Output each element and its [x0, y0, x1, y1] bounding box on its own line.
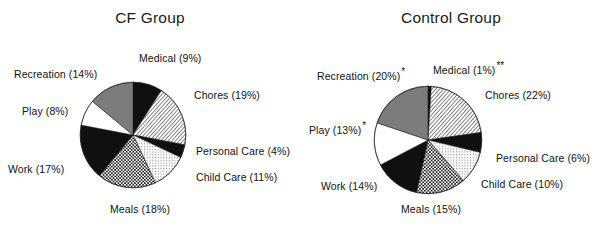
pie-slice-chores	[428, 86, 481, 140]
pie-label-value: (6%)	[567, 152, 590, 164]
pie-label-control-play: Play(13%)*	[309, 120, 366, 136]
pie-label-text: Meals	[401, 203, 430, 215]
pie-label-value: (22%)	[522, 89, 551, 101]
pie-label-value: (9%)	[179, 52, 202, 64]
pie-label-text: Personal Care	[196, 145, 264, 157]
pie-label-control-medical: Medical(1%)**	[433, 60, 504, 76]
chart-panel-cf-group: CF Group Medical	[0, 0, 300, 226]
pie-label-value: (15%)	[433, 203, 462, 215]
pie-label-text: Play	[309, 124, 330, 136]
pie-label-cf-meals: Meals(18%)	[110, 203, 170, 215]
pie-label-value: (14%)	[349, 180, 378, 192]
pie-slices-cf	[80, 82, 186, 188]
pie-label-value: (14%)	[69, 68, 98, 80]
pie-label-value: (19%)	[231, 89, 260, 101]
pie-label-text: Medical	[433, 64, 470, 76]
pie-label-cf-play: Play(8%)	[22, 105, 68, 117]
pie-label-text: Personal Care	[496, 152, 564, 164]
pie-label-text: Chores	[485, 89, 519, 101]
pie-label-cf-chores: Chores(19%)	[194, 89, 260, 101]
pie-label-value: (4%)	[267, 145, 290, 157]
pie-label-value: (11%)	[250, 171, 278, 183]
significance-mark: **	[496, 60, 504, 71]
pie-label-text: Meals	[110, 203, 139, 215]
pie-label-control-recreation: Recreation(20%)*	[317, 66, 405, 82]
pie-label-cf-work: Work(17%)	[8, 163, 64, 175]
pie-label-value: (20%)	[372, 70, 401, 82]
pie-label-value: (13%)	[333, 124, 362, 136]
significance-mark: *	[401, 66, 405, 77]
pie-label-control-work: Work(14%)	[321, 180, 377, 192]
pie-label-cf-child-care: Child Care(11%)	[196, 171, 277, 183]
pie-label-text: Chores	[194, 89, 228, 101]
pie-label-text: Work	[321, 180, 346, 192]
pie-label-cf-recreation: Recreation(14%)	[14, 68, 97, 80]
pie-label-text: Child Care	[196, 171, 247, 183]
pie-label-control-meals: Meals(15%)	[401, 203, 461, 215]
pie-label-value: (18%)	[142, 203, 171, 215]
pie-label-cf-personal-care: Personal Care(4%)	[196, 145, 290, 157]
pie-label-text: Work	[8, 163, 33, 175]
pie-label-text: Medical	[139, 52, 176, 64]
pie-label-value: (10%)	[535, 178, 564, 190]
pie-label-value: (17%)	[36, 163, 65, 175]
pie-label-value: (1%)	[473, 64, 496, 76]
pie-slices-control	[374, 86, 482, 194]
pie-label-control-chores: Chores(22%)	[485, 89, 551, 101]
pie-label-text: Recreation	[317, 70, 369, 82]
pie-label-text: Recreation	[14, 68, 66, 80]
pie-label-value: (8%)	[46, 105, 69, 117]
pie-label-control-child-care: Child Care(10%)	[481, 178, 563, 190]
chart-panel-control-group: Control Group Me	[301, 0, 601, 226]
pie-label-text: Play	[22, 105, 43, 117]
pie-chart-cf-group	[78, 80, 188, 190]
significance-mark: *	[362, 120, 366, 131]
pie-label-text: Child Care	[481, 178, 532, 190]
chart-title-cf-group: CF Group	[0, 9, 300, 27]
pie-chart-control-group	[372, 84, 484, 196]
chart-title-control-group: Control Group	[301, 9, 601, 27]
pie-label-control-personal-care: Personal Care(6%)	[496, 152, 590, 164]
pie-label-cf-medical: Medical(9%)	[139, 52, 201, 64]
